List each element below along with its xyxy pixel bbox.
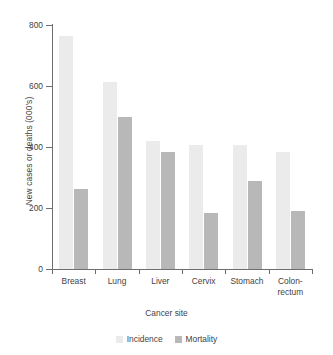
- bar-mortality-liver: [161, 152, 175, 269]
- x-axis-label-colon-rectum: Colon- rectum: [269, 276, 312, 297]
- bar-group: [276, 25, 305, 269]
- plot-area: [52, 25, 312, 269]
- legend-swatch-icon: [116, 336, 123, 343]
- x-axis-label-liver: Liver: [139, 276, 182, 287]
- bar-mortality-cervix: [204, 213, 218, 269]
- y-axis-tick-label: 0: [0, 264, 43, 274]
- bar-group: [189, 25, 218, 269]
- legend-swatch-icon: [175, 336, 182, 343]
- x-axis-label-lung: Lung: [95, 276, 138, 287]
- bar-mortality-breast: [74, 189, 88, 269]
- legend-label: Incidence: [127, 334, 163, 344]
- bar-incidence-lung: [103, 82, 117, 269]
- y-axis-tick-label: 200: [0, 203, 43, 213]
- legend-label: Mortality: [186, 334, 218, 344]
- x-axis-label-cervix: Cervix: [182, 276, 225, 287]
- bar-incidence-colon-rectum: [276, 152, 290, 269]
- bar-incidence-breast: [59, 36, 73, 269]
- legend-item-mortality[interactable]: Mortality: [175, 334, 218, 344]
- y-axis-tick-label: 800: [0, 20, 43, 30]
- x-axis-tick: [225, 269, 226, 274]
- bar-mortality-lung: [118, 117, 132, 269]
- bar-mortality-stomach: [248, 181, 262, 269]
- bar-mortality-colon-rectum: [291, 211, 305, 269]
- x-axis-title: Cancer site: [0, 308, 333, 318]
- bar-group: [59, 25, 88, 269]
- x-axis-tick: [95, 269, 96, 274]
- chart-legend: IncidenceMortality: [0, 334, 333, 344]
- x-axis-label-breast: Breast: [52, 276, 95, 287]
- y-axis-tick-label: 600: [0, 81, 43, 91]
- x-axis-tick: [312, 269, 313, 274]
- bar-incidence-stomach: [233, 145, 247, 269]
- bar-incidence-cervix: [189, 145, 203, 269]
- bar-group: [103, 25, 132, 269]
- x-axis-tick: [139, 269, 140, 274]
- y-axis-tick-label: 400: [0, 142, 43, 152]
- bar-chart: New cases or deaths (000's) 020040060080…: [0, 0, 333, 355]
- x-axis-tick: [269, 269, 270, 274]
- legend-item-incidence[interactable]: Incidence: [116, 334, 163, 344]
- bar-group: [233, 25, 262, 269]
- bar-group: [146, 25, 175, 269]
- x-axis-tick: [52, 269, 53, 274]
- x-axis-tick: [182, 269, 183, 274]
- bar-incidence-liver: [146, 141, 160, 269]
- x-axis-label-stomach: Stomach: [225, 276, 268, 287]
